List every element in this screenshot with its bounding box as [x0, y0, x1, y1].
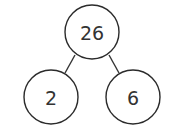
whole-node: 26	[65, 5, 119, 59]
left-part-node-label: 2	[45, 87, 57, 109]
right-part-node-label: 6	[127, 87, 139, 109]
right-part-node: 6	[106, 70, 160, 124]
number-bond-diagram: 26 2 6	[0, 0, 171, 138]
edge-whole-to-left-part	[65, 55, 75, 73]
whole-node-label: 26	[80, 22, 104, 44]
left-part-node: 2	[24, 70, 78, 124]
edge-whole-to-right-part	[109, 55, 119, 73]
